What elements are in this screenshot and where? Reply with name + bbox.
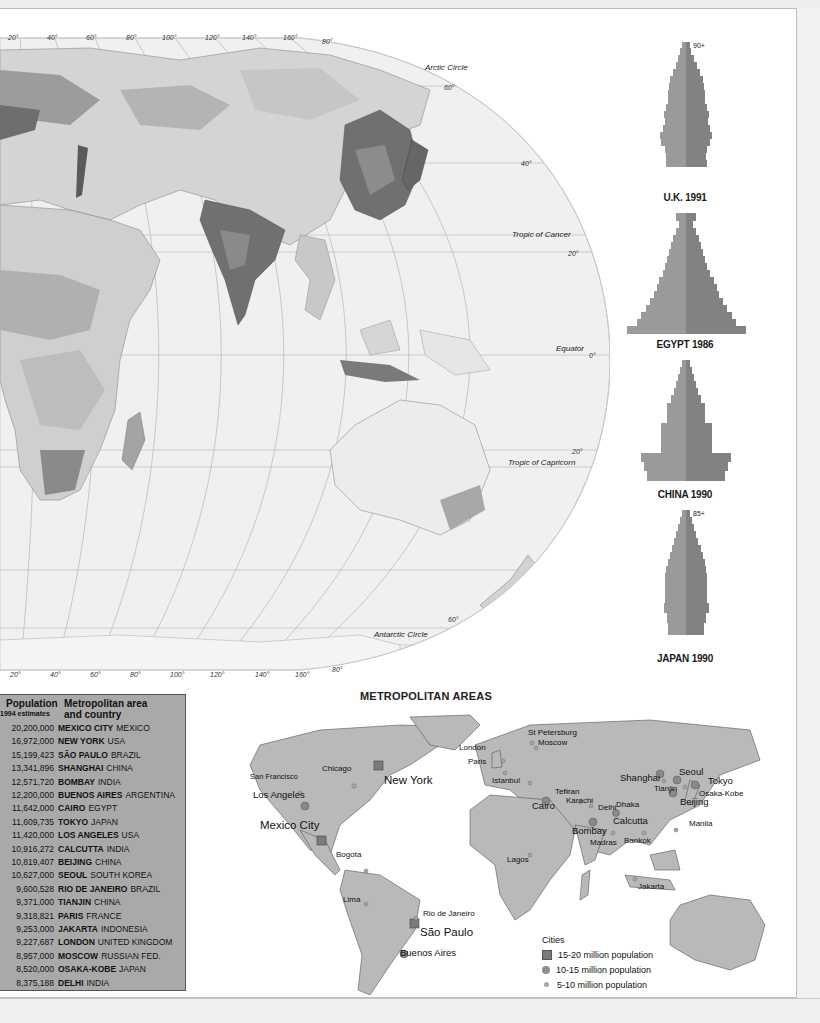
pyramid-china: CHINA 1990 xyxy=(610,360,760,505)
lon-label: 140° xyxy=(255,671,269,678)
population-value: 8,957,000 xyxy=(16,951,54,961)
pyramid-china-chart xyxy=(610,360,760,485)
city-name: SÃO PAULOBRAZIL xyxy=(58,750,141,760)
country-name: MEXICO xyxy=(116,723,150,733)
pyramid-title: JAPAN 1990 xyxy=(610,653,760,664)
antarctic-circle-label: Antarctic Circle xyxy=(374,630,428,639)
city-name: TIANJINCHINA xyxy=(58,897,121,907)
city-label-calcutta: Calcutta xyxy=(613,815,648,826)
city-name: SHANGHAICHINA xyxy=(58,763,133,773)
population-value: 8,375,188 xyxy=(16,978,54,988)
city-label-los-angeles: Los Angeles xyxy=(253,789,305,800)
country-name: BRAZIL xyxy=(111,750,141,760)
city-label-london: London xyxy=(459,743,486,752)
country-name: CHINA xyxy=(95,857,121,867)
population-value: 12,200,000 xyxy=(11,790,54,800)
city-label-buenos-aires: Buenos Aires xyxy=(400,947,456,958)
country-name: JAPAN xyxy=(119,964,146,974)
city-label-new-york: New York xyxy=(384,774,433,786)
city-name: BOMBAYINDIA xyxy=(58,777,121,787)
small-dot-marker-icon xyxy=(544,982,549,987)
city-label-tianjin: Tianjin xyxy=(654,784,677,793)
lon-label: 140° xyxy=(242,34,256,41)
city-name: NEW YORKUSA xyxy=(58,736,125,746)
country-name: CHINA xyxy=(94,897,120,907)
country-name: USA xyxy=(122,830,139,840)
city-name: MEXICO CITYMEXICO xyxy=(58,723,150,733)
lat-label: 0° xyxy=(589,352,596,359)
population-value: 10,819,407 xyxy=(11,857,54,867)
pyramid-japan-chart xyxy=(610,510,760,642)
lat-label: 60° xyxy=(448,616,459,623)
table-row: 13,341,896SHANGHAICHINA xyxy=(0,763,186,776)
pyramid-title: CHINA 1990 xyxy=(610,489,760,500)
lon-label: 60° xyxy=(90,671,101,678)
pyramid-egypt-chart xyxy=(610,213,760,338)
metro-map-graphic xyxy=(230,705,790,995)
city-label-cairo: Cairo xyxy=(532,800,555,811)
country-name: INDIA xyxy=(98,777,121,787)
country-name: CHINA xyxy=(106,763,132,773)
table-row: 9,600,528RIO DE JANEIROBRAZIL xyxy=(0,884,186,897)
page-right-margin xyxy=(797,8,820,998)
lat-label: 60° xyxy=(444,84,455,91)
table-row: 10,627,000SEOULSOUTH KOREA xyxy=(0,870,186,883)
pyramid-title: U.K. 1991 xyxy=(610,192,760,203)
city-name: LOS ANGELESUSA xyxy=(58,830,139,840)
lon-label: 20° xyxy=(10,671,21,678)
city-label-paris: Paris xyxy=(468,757,486,766)
lon-label: 100° xyxy=(170,671,184,678)
country-name: USA xyxy=(108,736,125,746)
square-marker-icon xyxy=(542,950,552,960)
lat-label: 20° xyxy=(568,250,579,257)
city-label-sao-paulo: São Paulo xyxy=(420,926,473,938)
city-name: JAKARTAINDONESIA xyxy=(58,924,148,934)
city-name: TOKYOJAPAN xyxy=(58,817,118,827)
population-value: 8,520,000 xyxy=(16,964,54,974)
arctic-circle-label: Arctic Circle xyxy=(425,63,468,72)
lat-label: 40° xyxy=(521,160,532,167)
legend-item-5-10m: 5-10 million population xyxy=(542,977,653,992)
city-label-bogota: Bogota xyxy=(336,850,361,859)
city-name: LONDONUNITED KINGDOM xyxy=(58,937,172,947)
pyramid-uk: 90+ U.K. 1991 xyxy=(610,42,760,207)
legend-item-15-20m: 15-20 million population xyxy=(542,947,653,962)
city-name: DELHIINDIA xyxy=(58,978,109,988)
population-value: 9,600,528 xyxy=(16,884,54,894)
lon-label: 80° xyxy=(322,38,333,45)
city-label-shanghai: Shanghai xyxy=(620,772,660,783)
table-row: 16,972,000NEW YORKUSA xyxy=(0,736,186,749)
city-name: CALCUTTAINDIA xyxy=(58,844,129,854)
country-name: BRAZIL xyxy=(130,884,160,894)
city-label-san-francisco: San Francisco xyxy=(250,772,298,781)
city-label-tokyo: Tokyo xyxy=(708,775,733,786)
page-bottom-band xyxy=(0,998,820,1023)
city-label-madras: Madras xyxy=(590,838,617,847)
lon-label: 40° xyxy=(47,34,58,41)
pyramid-title: EGYPT 1986 xyxy=(610,339,760,350)
lon-label: 20° xyxy=(8,34,19,41)
population-value: 13,341,896 xyxy=(11,763,54,773)
population-value: 9,318,821 xyxy=(16,911,54,921)
city-label-delhi: Delhi xyxy=(598,803,616,812)
lon-label: 120° xyxy=(205,34,219,41)
map-graphic xyxy=(0,30,610,680)
pyramid-japan: 85+ JAPAN 1990 xyxy=(610,510,760,670)
population-density-map: 20° 40° 60° 80° 100° 120° 140° 160° 80° … xyxy=(0,30,610,680)
city-label-bombay: Bombay xyxy=(572,825,607,836)
lon-label: 80° xyxy=(332,666,343,673)
table-row: 10,819,407BEIJINGCHINA xyxy=(0,857,186,870)
city-label-rio-de-janeiro: Rio de Janeiro xyxy=(423,909,475,918)
country-name: EGYPT xyxy=(88,803,117,813)
city-label-moscow: Moscow xyxy=(538,738,567,747)
table-row: 11,609,735TOKYOJAPAN xyxy=(0,817,186,830)
city-label-mexico-city: Mexico City xyxy=(260,819,319,831)
tropic-of-capricorn-label: Tropic of Capricorn xyxy=(508,458,575,467)
table-row: 15,199,423SÃO PAULOBRAZIL xyxy=(0,750,186,763)
table-row: 10,916,272CALCUTTAINDIA xyxy=(0,844,186,857)
header-area: Metropolitan area xyxy=(64,698,147,709)
city-name: BEIJINGCHINA xyxy=(58,857,121,867)
table-row: 12,200,000BUENOS AIRESARGENTINA xyxy=(0,790,186,803)
table-row: 8,375,188DELHIINDIA xyxy=(0,978,186,991)
city-label-st-petersburg: St Petersburg xyxy=(528,728,577,737)
